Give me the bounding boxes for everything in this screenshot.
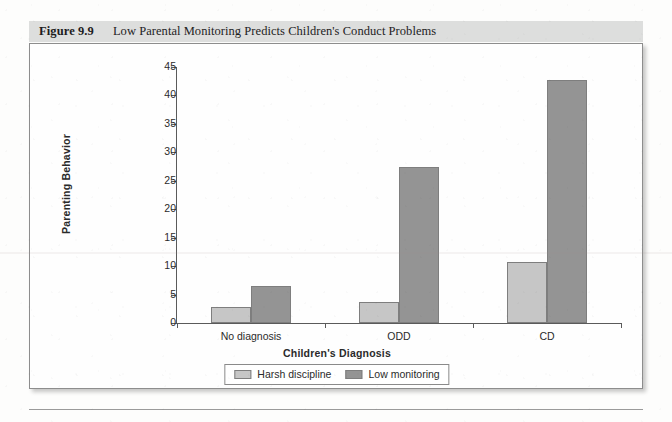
y-tick-label: 30 <box>152 145 176 157</box>
y-tick-label: 40 <box>152 88 176 100</box>
y-tick-label: 25 <box>152 174 176 186</box>
legend-swatch <box>234 370 251 379</box>
bar <box>359 302 399 323</box>
chart-legend: Harsh disciplineLow monitoring <box>224 364 449 385</box>
legend-swatch <box>345 370 362 379</box>
bar <box>251 286 291 323</box>
x-category-label: No diagnosis <box>221 330 282 342</box>
x-axis-label: Children's Diagnosis <box>30 347 644 359</box>
figure-header: Figure 9.9 Low Parental Monitoring Predi… <box>29 21 643 42</box>
x-tick <box>177 323 178 328</box>
bar <box>211 307 251 323</box>
figure-title: Low Parental Monitoring Predicts Childre… <box>113 24 436 39</box>
y-tick-label: 20 <box>152 202 176 214</box>
bars-container <box>177 67 621 323</box>
legend-label: Harsh discipline <box>257 368 331 380</box>
footer-divider <box>29 409 643 410</box>
figure-number: Figure 9.9 <box>39 24 94 39</box>
x-axis-line <box>176 323 621 324</box>
x-tick <box>621 323 622 328</box>
x-category-label: ODD <box>387 330 410 342</box>
x-tick <box>473 323 474 328</box>
y-tick-label: 15 <box>152 231 176 243</box>
bar-chart: Parenting Behavior 051015202530354045 No… <box>30 44 644 390</box>
bar <box>399 167 439 323</box>
y-tick-label: 35 <box>152 117 176 129</box>
y-tick-label: 0 <box>152 316 176 328</box>
y-tick-label: 45 <box>152 60 176 72</box>
legend-item: Harsh discipline <box>234 368 331 380</box>
x-category-label: CD <box>539 330 554 342</box>
bar <box>547 80 587 323</box>
chart-panel: Parenting Behavior 051015202530354045 No… <box>29 43 643 389</box>
legend-label: Low monitoring <box>368 368 439 380</box>
y-axis-label: Parenting Behavior <box>60 104 72 264</box>
legend-item: Low monitoring <box>345 368 439 380</box>
bar <box>507 262 547 323</box>
y-tick-label: 5 <box>152 288 176 300</box>
y-tick-label: 10 <box>152 259 176 271</box>
x-tick <box>325 323 326 328</box>
